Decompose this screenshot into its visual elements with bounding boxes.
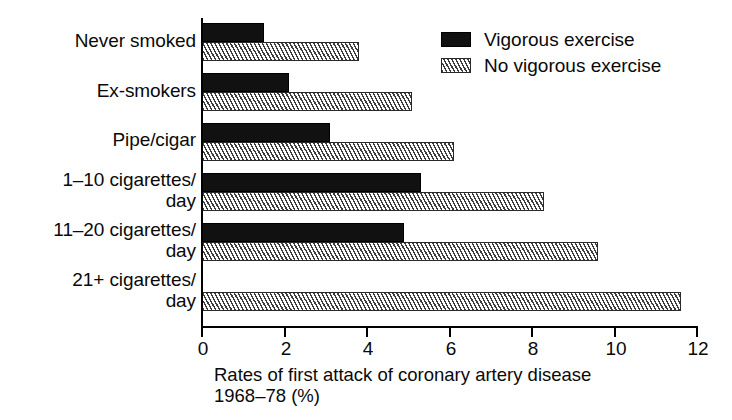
bar-no-vigorous-ex-smokers [202,92,412,111]
category-label-1-10-cigarettes: 1–10 cigarettes/ day [0,169,196,211]
x-tick-mark-10 [614,328,616,337]
y-axis-line [201,18,203,327]
legend-label-no-vigorous-exercise: No vigorous exercise [484,55,661,76]
x-tick-mark-2 [284,328,286,337]
category-label-pipe-cigar: Pipe/cigar [0,129,196,150]
x-axis-title-line-1: Rates of first attack of coronary artery… [214,364,591,385]
x-tick-mark-8 [531,328,533,337]
bar-no-vigorous-11-20-cigarettes [202,242,598,261]
x-tick-label-0: 0 [183,338,223,360]
x-tick-label-4: 4 [348,338,388,360]
x-tick-mark-12 [696,328,698,337]
x-tick-label-10: 10 [596,338,636,360]
bar-no-vigorous-pipe-cigar [202,142,454,161]
bar-no-vigorous-never-smoked [202,42,359,61]
legend-swatch-hatch-icon [441,58,471,73]
x-tick-mark-6 [449,328,451,337]
bar-no-vigorous-1-10-cigarettes [202,192,544,211]
bar-vigorous-11-20-cigarettes [202,223,404,242]
x-axis-title: Rates of first attack of coronary artery… [214,364,714,406]
category-label-never-smoked: Never smoked [0,30,196,51]
legend-item-vigorous-exercise: Vigorous exercise [441,26,661,52]
category-axis-labels: Never smoked Ex-smokers Pipe/cigar 1–10 … [0,0,196,330]
x-axis-title-line-2: 1968–78 (%) [214,385,714,406]
chart-container: Never smoked Ex-smokers Pipe/cigar 1–10 … [0,0,732,420]
x-tick-label-8: 8 [513,338,553,360]
bar-no-vigorous-21-plus-cigarettes [202,292,681,311]
x-tick-label-6: 6 [431,338,471,360]
category-label-21-plus-cigarettes: 21+ cigarettes/ day [0,269,196,311]
legend-label-vigorous-exercise: Vigorous exercise [484,29,635,50]
bar-vigorous-1-10-cigarettes [202,173,421,192]
category-label-ex-smokers: Ex-smokers [0,80,196,101]
x-tick-label-2: 2 [266,338,306,360]
legend-item-no-vigorous-exercise: No vigorous exercise [441,52,661,78]
bar-vigorous-ex-smokers [202,73,289,92]
x-tick-label-12: 12 [678,338,718,360]
bar-vigorous-pipe-cigar [202,123,330,142]
bar-vigorous-never-smoked [202,23,264,42]
legend-swatch-solid-icon [441,32,471,47]
category-label-11-20-cigarettes: 11–20 cigarettes/ day [0,219,196,261]
chart-legend: Vigorous exercise No vigorous exercise [441,26,661,78]
x-tick-mark-0 [201,328,203,337]
x-tick-mark-4 [366,328,368,337]
